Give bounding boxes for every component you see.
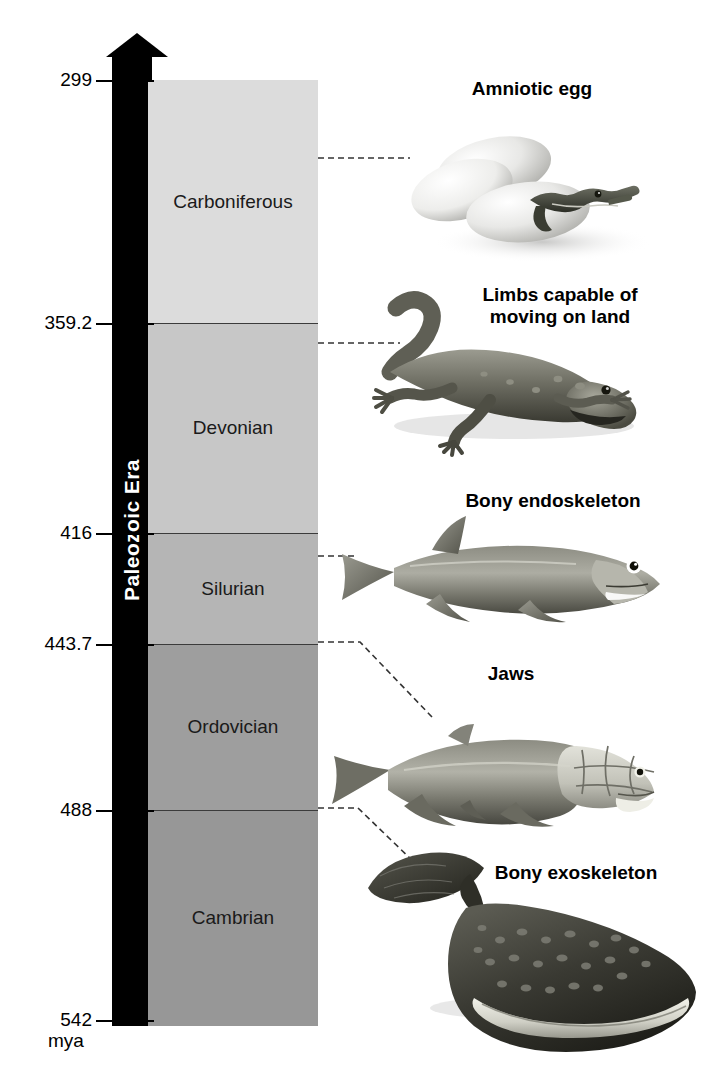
period-label: Cambrian <box>192 907 274 929</box>
axis-tick-label: 416 <box>0 522 92 544</box>
period-boundary-line <box>148 810 318 811</box>
axis-tick-mark <box>96 80 154 82</box>
callout-label-placoderm-fish: Jaws <box>456 663 566 685</box>
illustration-bony-fish <box>334 508 674 644</box>
period-band-carboniferous: Carboniferous <box>148 80 318 323</box>
axis-tick-label: 542 <box>0 1009 92 1031</box>
axis-tick-mark <box>96 644 154 646</box>
period-band-ordovician: Ordovician <box>148 644 318 810</box>
illustration-ostracoderm <box>350 812 680 1032</box>
period-label: Devonian <box>193 417 273 439</box>
paleozoic-timeline-figure: Paleozoic Era CarboniferousDevonianSilur… <box>0 0 708 1082</box>
illustration-amniotic-eggs <box>402 108 672 268</box>
illustration-early-tetrapod <box>344 278 664 448</box>
axis-tick-label: 359.2 <box>0 312 92 334</box>
period-boundary-line <box>148 533 318 534</box>
period-band-cambrian: Cambrian <box>148 810 318 1026</box>
axis-tick-mark <box>96 323 154 325</box>
axis-unit-label: mya <box>48 1030 84 1052</box>
axis-tick-mark <box>96 533 154 535</box>
period-band-silurian: Silurian <box>148 533 318 644</box>
axis-tick-mark <box>96 1020 154 1022</box>
period-column: CarboniferousDevonianSilurianOrdovicianC… <box>148 80 318 1026</box>
period-band-devonian: Devonian <box>148 323 318 533</box>
period-boundary-line <box>148 323 318 324</box>
period-label: Carboniferous <box>173 191 292 213</box>
axis-tick-mark <box>96 810 154 812</box>
callout-label-amniote-eggs-with-hatchling: Amniotic egg <box>432 78 632 100</box>
axis-tick-label: 299 <box>0 69 92 91</box>
period-label: Ordovician <box>188 716 279 738</box>
period-label: Silurian <box>201 578 264 600</box>
time-arrow-shaft <box>112 54 152 1026</box>
axis-tick-label: 488 <box>0 799 92 821</box>
axis-tick-label: 443.7 <box>0 633 92 655</box>
period-boundary-line <box>148 644 318 645</box>
